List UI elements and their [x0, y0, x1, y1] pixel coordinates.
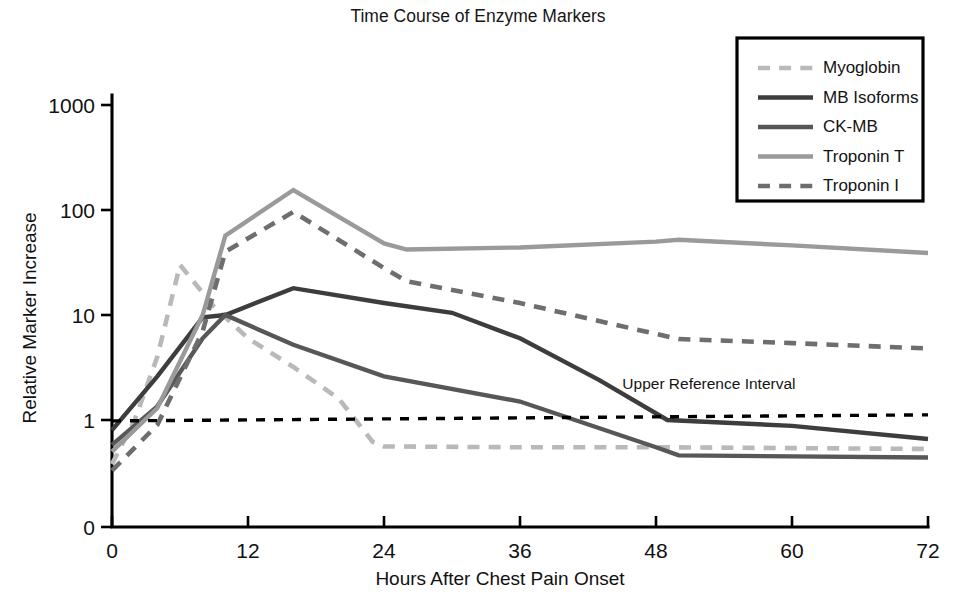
reference-line [112, 415, 928, 421]
x-tick-label: 48 [644, 539, 667, 562]
enzyme-markers-chart: Time Course of Enzyme Markers Relative M… [0, 0, 956, 602]
x-tick-label: 24 [372, 539, 396, 562]
y-tick-label: 100 [60, 199, 95, 222]
series-line-troponin-i [112, 212, 928, 471]
y-tick-label: 0 [83, 516, 95, 539]
chart-legend[interactable]: MyoglobinMB IsoformsCK-MBTroponin TTropo… [737, 38, 923, 201]
series-line-mb-isoforms [112, 288, 928, 439]
x-tick-label: 36 [508, 539, 531, 562]
legend-label-troponin-i[interactable]: Troponin I [823, 176, 899, 195]
x-tick-label: 72 [916, 539, 939, 562]
y-tick-label: 1 [83, 409, 95, 432]
x-tick-label: 0 [106, 539, 118, 562]
legend-label-troponin-t[interactable]: Troponin T [823, 147, 904, 166]
y-axis-title: Relative Marker Increase [19, 212, 40, 423]
chart-annotations: Upper Reference Interval [622, 375, 795, 392]
legend-label-myoglobin[interactable]: Myoglobin [823, 58, 901, 77]
series-line-myoglobin [112, 265, 928, 464]
y-tick-label: 10 [72, 304, 95, 327]
y-tick-label: 1000 [48, 94, 95, 117]
legend-label-mb-isoforms[interactable]: MB Isoforms [823, 88, 918, 107]
x-tick-label: 60 [780, 539, 803, 562]
x-axis-title: Hours After Chest Pain Onset [375, 568, 625, 589]
chart-title: Time Course of Enzyme Markers [350, 6, 605, 26]
legend-label-ck-mb[interactable]: CK-MB [823, 117, 878, 136]
x-tick-label: 12 [236, 539, 259, 562]
upper-reference-interval-line [112, 415, 928, 421]
series-lines [112, 190, 928, 471]
annotation-upper-reference-interval: Upper Reference Interval [622, 375, 795, 392]
chart-svg: Time Course of Enzyme Markers Relative M… [0, 0, 956, 602]
